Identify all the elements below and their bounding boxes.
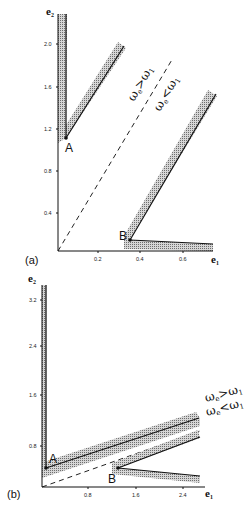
figure-canvas: 0.4 0.8 1.2 1.6 2.0 0.2 0.4 0.6 e2 e1 A …	[0, 0, 248, 509]
tick-label: 1.6	[44, 84, 52, 90]
svg-text:ωe<ω1: ωe<ω1	[150, 73, 182, 114]
tick-label: 0.4	[136, 256, 144, 262]
panel-a-x-ticks: 0.2 0.4 0.6	[94, 251, 187, 262]
panel-label-b: (b)	[7, 488, 20, 500]
point-label-a: A	[49, 452, 57, 466]
panel-a-region-label-lower: ωe<ω1	[150, 73, 182, 114]
panel-b-y-axis-label: e2	[28, 272, 36, 285]
svg-text:ωe>ω1: ωe>ω1	[124, 63, 156, 104]
panel-a-region-label-upper: ωe>ω1	[124, 63, 156, 104]
panel-a-branch-a	[58, 14, 126, 143]
tick-label: 1.2	[44, 126, 52, 132]
panel-b-x-axis-label: e1	[205, 487, 213, 500]
point-label-b: B	[108, 472, 116, 486]
panel-label-a: (a)	[25, 254, 38, 266]
tick-label: 1.6	[29, 392, 37, 398]
panel-a-boundary-dashed	[58, 58, 173, 251]
panel-b-x-ticks: 0.8 1.6 2.4	[84, 487, 187, 498]
panel-b: 0.8 1.6 2.4 3.2 0.8 1.6 2.4 e2 e1 A B (b…	[7, 272, 245, 500]
panel-a: 0.4 0.8 1.2 1.6 2.0 0.2 0.4 0.6 e2 e1 A …	[25, 5, 219, 266]
tick-label: 2.0	[44, 41, 52, 47]
panel-a-x-axis-label: e1	[211, 253, 219, 266]
tick-label: 3.2	[29, 297, 37, 303]
tick-label: 0.4	[44, 210, 52, 216]
panel-a-branch-b	[124, 90, 217, 251]
panel-a-y-ticks: 0.4 0.8 1.2 1.6 2.0	[44, 41, 58, 216]
point-label-b: B	[119, 229, 127, 243]
tick-label: 2.4	[29, 343, 37, 349]
point-label-a: A	[65, 141, 73, 155]
tick-label: 0.8	[44, 168, 52, 174]
tick-label: 0.2	[94, 256, 102, 262]
tick-label: 0.8	[84, 492, 92, 498]
tick-label: 0.6	[179, 256, 187, 262]
panel-b-branch-a	[42, 285, 200, 478]
tick-label: 1.6	[132, 492, 140, 498]
panel-b-y-ticks: 0.8 1.6 2.4 3.2	[29, 297, 42, 449]
panel-a-y-axis-label: e2	[46, 5, 54, 18]
tick-label: 0.8	[29, 443, 37, 449]
tick-label: 2.4	[179, 492, 187, 498]
